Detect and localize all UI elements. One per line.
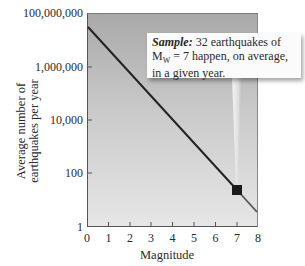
xtick-label: 5 xyxy=(187,231,201,246)
xtick-label: 6 xyxy=(209,231,223,246)
callout-text-3: in a given year. xyxy=(152,66,225,80)
ytick-label: 1,000,000 xyxy=(35,60,83,75)
xtick-label: 3 xyxy=(144,231,158,246)
ytick-label: 100,000,000 xyxy=(23,6,83,21)
xtick-label: 8 xyxy=(251,231,265,246)
sample-callout: Sample: 32 earthquakes of MW = 7 happen,… xyxy=(147,33,301,78)
xtick-label: 4 xyxy=(166,231,180,246)
callout-lead: Sample: xyxy=(152,35,193,49)
callout-text-1: 32 earthquakes of xyxy=(193,35,281,49)
x-axis-label: Magnitude xyxy=(140,248,194,263)
y-axis-label-line2: earthquakes per year xyxy=(28,51,41,211)
sample-point-marker xyxy=(232,185,242,195)
y-axis-label: Average number of earthquakes per year xyxy=(15,51,41,211)
xtick-label: 1 xyxy=(102,231,116,246)
callout-m: M xyxy=(152,49,163,63)
callout-text-2: = 7 happen, on average, xyxy=(170,49,288,63)
ytick-label: 10,000 xyxy=(50,113,83,128)
ytick-label: 100 xyxy=(65,166,83,181)
xtick-label: 2 xyxy=(123,231,137,246)
xtick-label: 0 xyxy=(80,231,94,246)
xtick-label: 7 xyxy=(230,231,244,246)
